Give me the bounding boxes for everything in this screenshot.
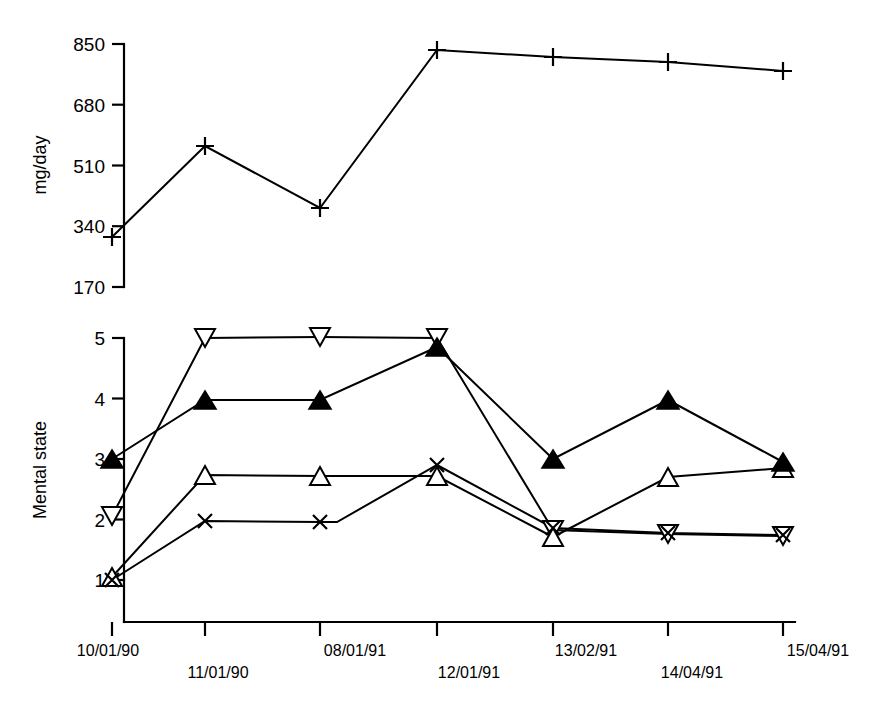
mental-ytick-label-2: 2 <box>94 510 105 531</box>
mental-ytick-label-4: 4 <box>94 389 105 410</box>
xtick-label-3: 12/01/91 <box>438 664 500 681</box>
xtick-label-0: 10/01/90 <box>77 642 139 659</box>
dose-ytick-label-170: 170 <box>73 277 105 298</box>
dose-panel: 850 680 510 340 170 mg/day <box>30 34 792 298</box>
dose-y-ticks <box>112 44 124 287</box>
xtick-label-2: 08/01/91 <box>324 642 386 659</box>
mental-ytick-label-1: 1 <box>94 570 105 591</box>
dose-series-line <box>112 50 783 237</box>
dose-ytick-label-850: 850 <box>73 34 105 55</box>
xtick-label-4: 13/02/91 <box>555 642 617 659</box>
dose-ytick-label-510: 510 <box>73 156 105 177</box>
mental-y-axis-title: Mental state <box>30 421 50 519</box>
mental-state-panel: 5 4 3 2 1 Mental state 10/01/90 11/01/90… <box>30 328 849 681</box>
series-b-markers <box>102 328 793 545</box>
figure-container: 850 680 510 340 170 mg/day <box>0 0 870 704</box>
xtick-label-6: 15/04/91 <box>787 642 849 659</box>
chart-canvas: 850 680 510 340 170 mg/day <box>0 0 870 704</box>
dose-markers <box>103 41 792 246</box>
dose-ytick-label-680: 680 <box>73 95 105 116</box>
xtick-label-5: 14/04/91 <box>661 664 723 681</box>
mental-ytick-label-5: 5 <box>94 328 105 349</box>
mental-x-ticks <box>112 622 783 636</box>
dose-ytick-label-340: 340 <box>73 216 105 237</box>
xtick-label-1: 11/01/90 <box>187 664 248 681</box>
series-b-line <box>112 337 783 536</box>
dose-y-axis-title: mg/day <box>30 135 50 194</box>
